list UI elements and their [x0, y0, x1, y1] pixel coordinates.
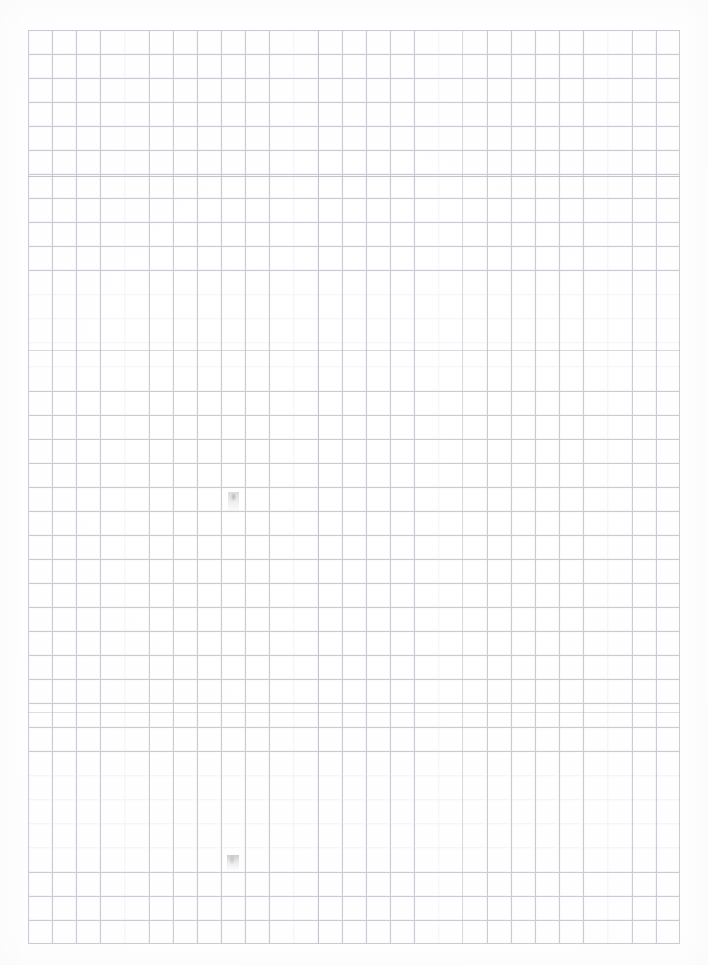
emphasis-rule-horizontal	[28, 350, 680, 351]
emphasis-rule-vertical	[318, 30, 319, 944]
emphasis-rule-horizontal	[28, 176, 680, 177]
emphasis-rule-horizontal	[28, 712, 680, 713]
grid-right-border	[679, 30, 680, 944]
ruled-grid-area	[28, 30, 680, 944]
grid-bottom-border	[28, 943, 680, 944]
grid-lines-layer	[28, 30, 680, 944]
emphasis-rule-vertical	[462, 30, 463, 944]
graph-paper-page	[0, 0, 708, 965]
